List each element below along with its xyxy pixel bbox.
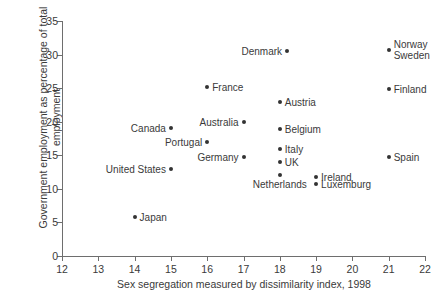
x-tick-label: 16 — [201, 263, 213, 275]
data-point-label: Norway Sweden — [394, 39, 430, 61]
x-tick — [389, 256, 390, 261]
x-tick — [280, 256, 281, 261]
data-point-label: Netherlands — [253, 179, 307, 190]
y-axis-line — [62, 21, 63, 256]
data-point-label: UK — [285, 157, 299, 168]
y-tick-label: 5 — [52, 216, 58, 228]
x-tick — [425, 256, 426, 261]
x-tick-label: 21 — [383, 263, 395, 275]
x-tick — [62, 256, 63, 261]
data-point — [278, 100, 282, 104]
x-tick-label: 18 — [274, 263, 286, 275]
y-tick-label: 35 — [46, 15, 58, 27]
data-point — [278, 173, 282, 177]
data-point-label: Denmark — [241, 45, 282, 56]
x-tick — [98, 256, 99, 261]
data-point — [278, 127, 282, 131]
x-tick — [244, 256, 245, 261]
x-tick-label: 19 — [310, 263, 322, 275]
x-tick — [207, 256, 208, 261]
data-point — [169, 126, 173, 130]
x-tick — [316, 256, 317, 261]
data-point-label: Austria — [285, 97, 316, 108]
x-tick — [352, 256, 353, 261]
y-tick-label: 20 — [46, 116, 58, 128]
data-point-label: Portugal — [165, 136, 202, 147]
y-tick-label: 30 — [46, 49, 58, 61]
data-point — [387, 48, 391, 52]
data-point-label: Australia — [200, 117, 239, 128]
data-point — [314, 182, 318, 186]
data-point — [205, 140, 209, 144]
x-tick-label: 22 — [419, 263, 431, 275]
data-point — [242, 120, 246, 124]
data-point-label: United States — [106, 163, 166, 174]
data-point-label: Germany — [197, 151, 238, 162]
x-tick — [135, 256, 136, 261]
data-point — [278, 160, 282, 164]
data-point — [278, 147, 282, 151]
x-tick-label: 20 — [347, 263, 359, 275]
x-axis-title: Sex segregation measured by dissimilarit… — [62, 278, 426, 290]
x-tick — [171, 256, 172, 261]
data-point-label: Italy — [285, 144, 303, 155]
x-tick-label: 14 — [129, 263, 141, 275]
y-tick-label: 15 — [46, 149, 58, 161]
data-point — [169, 167, 173, 171]
scatter-chart: Government employment as percentage of t… — [0, 0, 443, 299]
data-point-label: France — [212, 82, 243, 93]
data-point-label: Finland — [394, 83, 427, 94]
data-point-label: Japan — [140, 212, 167, 223]
data-point-label: Belgium — [285, 124, 321, 135]
data-point — [242, 155, 246, 159]
data-point-label: Spain — [394, 151, 420, 162]
data-point — [387, 155, 391, 159]
data-point-label: Luxemburg — [321, 179, 371, 190]
y-tick-label: 0 — [52, 250, 58, 262]
y-tick-label: 25 — [46, 82, 58, 94]
x-tick-label: 17 — [238, 263, 250, 275]
plot-area: 05101520253035 1213141516171819202122 Ja… — [62, 21, 425, 256]
y-tick-label: 10 — [46, 183, 58, 195]
x-tick-label: 15 — [165, 263, 177, 275]
data-point — [314, 175, 318, 179]
data-point — [205, 85, 209, 89]
data-point-label: Canada — [131, 123, 166, 134]
x-tick-label: 12 — [56, 263, 68, 275]
x-tick-label: 13 — [92, 263, 104, 275]
data-point — [133, 215, 137, 219]
data-point — [285, 49, 289, 53]
data-point — [387, 87, 391, 91]
